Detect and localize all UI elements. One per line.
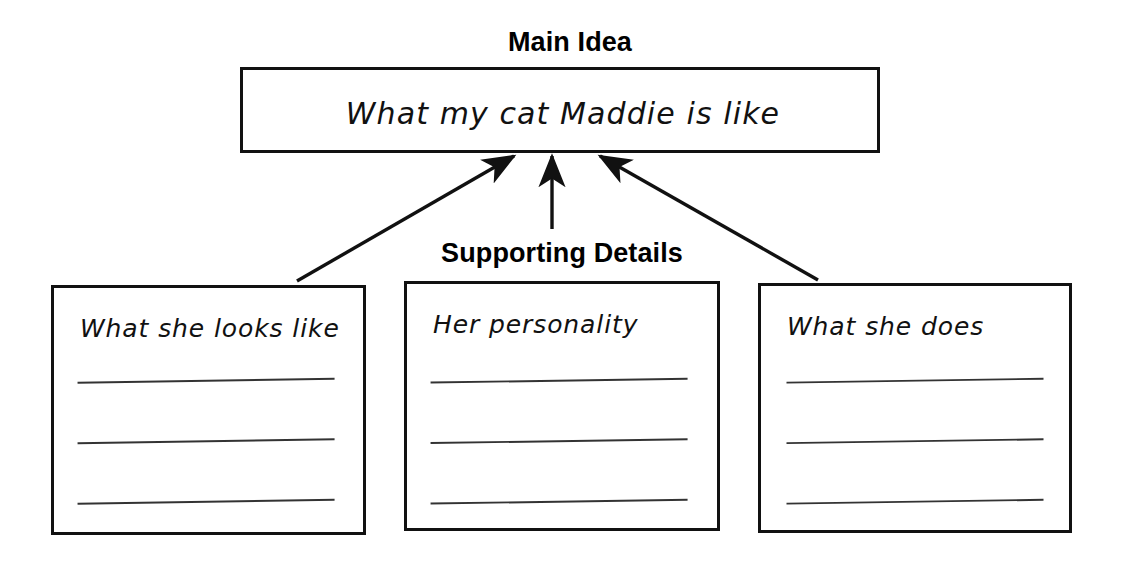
- writing-line[interactable]: [431, 500, 688, 504]
- detail-box-what-she-does[interactable]: What she does: [758, 283, 1072, 533]
- writing-line[interactable]: [787, 439, 1044, 443]
- detail-box-her-personality[interactable]: Her personality: [404, 281, 720, 531]
- supporting-details-heading: Supporting Details: [0, 238, 1124, 269]
- main-idea-heading: Main Idea: [0, 27, 1124, 58]
- graphic-organizer-canvas: Main Idea What my cat Maddie is like Sup…: [0, 0, 1124, 563]
- detail-box-heading: What she looks like: [80, 314, 340, 343]
- main-idea-box[interactable]: What my cat Maddie is like: [240, 67, 880, 153]
- writing-line[interactable]: [78, 439, 335, 443]
- detail-box-heading: What she does: [787, 312, 984, 341]
- writing-line[interactable]: [431, 439, 688, 443]
- writing-line[interactable]: [78, 500, 335, 504]
- detail-box-heading: Her personality: [433, 310, 638, 339]
- writing-line[interactable]: [431, 379, 688, 383]
- main-idea-heading-text: Main Idea: [508, 27, 632, 57]
- writing-line[interactable]: [78, 379, 335, 383]
- writing-line[interactable]: [787, 379, 1044, 383]
- supporting-details-heading-text: Supporting Details: [441, 238, 683, 268]
- detail-box-what-she-looks-like[interactable]: What she looks like: [51, 285, 366, 535]
- writing-line[interactable]: [787, 500, 1044, 504]
- main-idea-box-text: What my cat Maddie is like: [243, 70, 883, 156]
